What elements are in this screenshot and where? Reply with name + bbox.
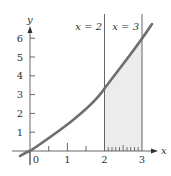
vline-label-x2: x = 2 <box>75 21 102 32</box>
shaded-area <box>105 38 143 151</box>
y-tick-label-1: 1 <box>17 127 23 138</box>
y-tick-label-2: 2 <box>17 108 23 119</box>
y-tick-label-6: 6 <box>17 33 23 44</box>
y-tick-label-4: 4 <box>17 70 23 81</box>
x-tick-label-0: 0 <box>33 154 39 165</box>
x-tick-label-2: 2 <box>101 154 107 165</box>
y-tick-label-3: 3 <box>17 89 23 100</box>
chart: 1 2 3 4 5 6 0 1 2 3 x y x = 2 x = 3 <box>0 0 171 176</box>
y-axis-arrow-icon <box>28 26 33 33</box>
x-tick-label-3: 3 <box>139 154 145 165</box>
x-axis-label: x <box>161 145 167 156</box>
vline-label-x3: x = 3 <box>112 21 139 32</box>
x-tick-label-1: 1 <box>64 154 70 165</box>
x-axis-arrow-icon <box>151 149 158 154</box>
y-axis-label: y <box>26 14 33 25</box>
y-tick-label-5: 5 <box>17 52 23 63</box>
y-ticks <box>30 38 35 132</box>
